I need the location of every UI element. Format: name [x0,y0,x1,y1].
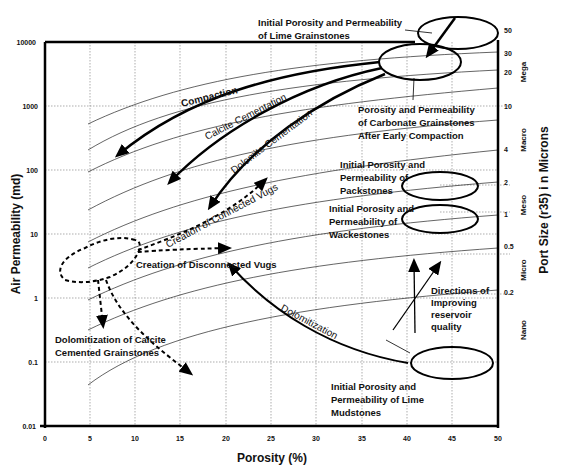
process-arrows [98,18,455,373]
svg-text:of Carbonate Grainstones: of Carbonate Grainstones [358,117,475,128]
svg-text:5: 5 [88,435,92,442]
svg-text:Initial Porosity and: Initial Porosity and [329,203,414,214]
svg-text:After Early Compaction: After Early Compaction [358,130,464,141]
svg-text:Permeability of: Permeability of [340,172,409,183]
svg-text:Macro: Macro [519,128,528,152]
svg-text:Dolomitization: Dolomitization [279,302,340,341]
y-axis-title: Air Permeability (md) [9,174,23,295]
svg-text:1: 1 [504,211,508,218]
svg-text:Improving: Improving [431,297,477,308]
svg-text:100: 100 [26,167,38,174]
porosity-permeability-chart: 10000 1000 100 10 1 0.1 0.01 0 5 10 15 2… [0,0,561,470]
svg-text:quality: quality [431,321,462,332]
svg-text:30: 30 [504,50,512,57]
svg-text:10000: 10000 [17,39,37,46]
svg-text:Permeability of Lime: Permeability of Lime [331,394,424,405]
svg-text:Initial Porosity and: Initial Porosity and [331,381,416,392]
svg-text:Porosity and Permeability: Porosity and Permeability [358,104,475,115]
svg-text:Dolomitization of Calcite: Dolomitization of Calcite [55,334,166,345]
svg-text:1000: 1000 [22,103,38,110]
svg-text:Mudstones: Mudstones [331,407,381,418]
x-tick-labels: 0 5 10 15 20 25 30 35 40 45 50 [43,435,502,442]
svg-text:35: 35 [358,435,366,442]
svg-text:reservoir: reservoir [431,309,472,320]
svg-text:4: 4 [504,146,508,153]
dolo-calcite-arrow-1 [98,280,103,325]
dolo-calcite-arrow-2 [106,280,190,373]
svg-text:Directions of: Directions of [431,285,490,296]
svg-text:Micro: Micro [519,259,528,280]
y2-tick-labels: 50 30 20 10 4 2 1 0.5 0.2 [504,27,514,296]
svg-text:of Lime Grainstones: of Lime Grainstones [258,30,350,41]
svg-text:10: 10 [131,435,139,442]
svg-text:Meso: Meso [519,195,528,216]
svg-text:0.2: 0.2 [504,289,514,296]
svg-text:Packstones: Packstones [340,185,393,196]
svg-text:0.01: 0.01 [22,423,36,430]
svg-text:0: 0 [43,435,47,442]
svg-text:Creation of Disconnected Vugs: Creation of Disconnected Vugs [136,259,277,270]
svg-text:Wackestones: Wackestones [329,229,389,240]
svg-text:Permeability of: Permeability of [329,216,398,227]
svg-text:50: 50 [504,27,512,34]
packstones-ellipse [402,172,478,200]
svg-text:0.1: 0.1 [28,359,38,366]
svg-text:10: 10 [30,231,38,238]
svg-text:45: 45 [448,435,456,442]
svg-text:Nano: Nano [519,320,528,340]
pore-classes: Mega Macro Meso Micro Nano [519,61,528,340]
svg-text:10: 10 [504,103,512,110]
svg-text:20: 20 [222,435,230,442]
svg-text:50: 50 [494,435,502,442]
svg-text:30: 30 [312,435,320,442]
svg-text:25: 25 [267,435,275,442]
svg-text:Initial Porosity and: Initial Porosity and [340,159,425,170]
svg-text:40: 40 [403,435,411,442]
x-axis-title: Porosity (%) [237,451,307,465]
dolomitization-arrow [230,265,408,363]
svg-text:20: 20 [504,69,512,76]
svg-text:15: 15 [176,435,184,442]
svg-text:Initial Porosity and Permeabil: Initial Porosity and Permeability [258,17,403,28]
svg-text:Cemented Grainstones: Cemented Grainstones [55,347,159,358]
region-annotations: Initial Porosity and Permeability of Lim… [55,17,490,418]
dolomitized-region [60,238,140,282]
svg-text:1: 1 [34,295,38,302]
svg-text:Mega: Mega [519,61,528,82]
quality-arrow-vertical [414,262,415,333]
svg-text:0.5: 0.5 [504,243,514,250]
disconnected-vugs-arrow [138,248,228,252]
y2-axis-title: Port Size (r35) i n Microns [537,126,551,274]
svg-text:2: 2 [504,179,508,186]
